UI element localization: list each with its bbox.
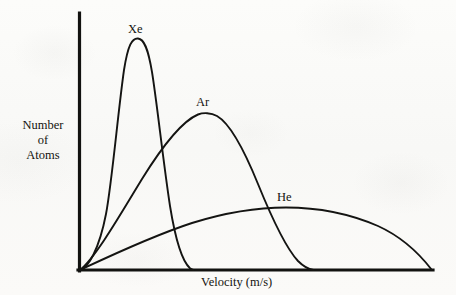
maxwell-boltzmann-distribution-figure: Xe Ar He Number of Atoms Velocity (m/s)	[0, 0, 456, 295]
curve-label-argon: Ar	[196, 95, 209, 110]
curve-xenon	[80, 38, 194, 270]
y-axis-title-line-1: Number	[12, 118, 74, 133]
y-axis-title: Number of Atoms	[12, 118, 74, 162]
curve-helium	[80, 208, 432, 271]
x-axis-title: Velocity (m/s)	[201, 275, 272, 290]
curve-label-xenon: Xe	[128, 22, 143, 37]
curve-label-helium: He	[277, 190, 292, 205]
y-axis-title-line-3: Atoms	[12, 148, 74, 163]
y-axis-title-line-2: of	[12, 133, 74, 148]
